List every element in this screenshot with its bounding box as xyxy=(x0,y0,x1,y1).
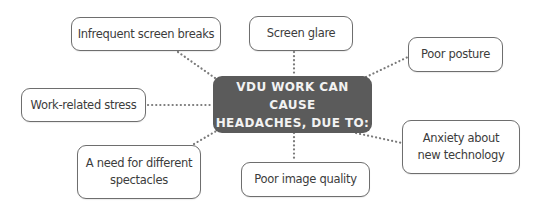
central-topic-line1: VDU WORK CAN CAUSE xyxy=(213,78,372,114)
connector-anxiety xyxy=(356,133,402,143)
central-topic-line2: HEADACHES, DUE TO: xyxy=(213,114,372,132)
node-anxiety: Anxiety about new technology xyxy=(402,120,520,174)
node-label: Infrequent screen breaks xyxy=(78,26,215,43)
connector-spectacles xyxy=(194,130,218,144)
node-poor-posture: Poor posture xyxy=(408,37,503,72)
node-infrequent-breaks: Infrequent screen breaks xyxy=(71,17,221,51)
node-screen-glare: Screen glare xyxy=(249,16,353,51)
node-label: Poor image quality xyxy=(254,171,356,188)
node-label: Work-related stress xyxy=(31,97,137,114)
node-label-line2: spectacles xyxy=(86,172,192,189)
node-label: Poor posture xyxy=(421,46,490,63)
connector-infrequent-breaks xyxy=(178,52,215,78)
node-label-line1: Anxiety about xyxy=(417,130,504,147)
node-spectacles: A need for different spectacles xyxy=(77,145,201,199)
node-label-line2: new technology xyxy=(417,147,504,164)
node-work-stress: Work-related stress xyxy=(21,88,146,122)
connector-poor-posture xyxy=(366,57,408,77)
node-label: Screen glare xyxy=(267,25,336,42)
node-label-line1: A need for different xyxy=(86,155,192,172)
mind-map: VDU WORK CAN CAUSE HEADACHES, DUE TO: In… xyxy=(0,0,541,206)
node-image-quality: Poor image quality xyxy=(241,162,370,197)
central-topic: VDU WORK CAN CAUSE HEADACHES, DUE TO: xyxy=(213,76,372,133)
